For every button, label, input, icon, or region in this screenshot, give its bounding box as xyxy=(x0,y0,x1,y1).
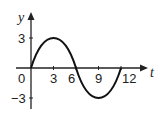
x-axis-label: t xyxy=(150,65,155,80)
y-tick-label-neg3: −3 xyxy=(11,91,26,106)
origin-label: 0 xyxy=(18,71,25,86)
y-tick-label-3: 3 xyxy=(18,31,25,46)
x-tick-label-6: 6 xyxy=(68,71,75,86)
y-axis-label: y xyxy=(16,10,25,25)
x-tick-label-9: 9 xyxy=(95,71,102,86)
chart: y t 3 −3 0 3 6 9 12 xyxy=(0,0,161,113)
x-tick-label-3: 3 xyxy=(50,71,57,86)
x-axis-arrow-icon xyxy=(140,65,148,72)
x-tick-label-12: 12 xyxy=(122,71,136,86)
y-axis-arrow-icon xyxy=(28,12,35,20)
